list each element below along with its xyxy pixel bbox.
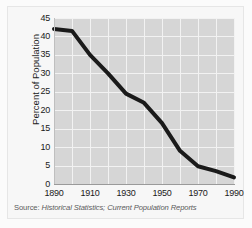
y-axis-title-holder: Percent of Population (14, 18, 32, 184)
gridline-vertical (234, 18, 235, 184)
x-tick-label: 1890 (44, 187, 63, 199)
plot-area (54, 18, 234, 184)
y-axis-title: Percent of Population (30, 15, 41, 145)
x-tick-label: 1930 (116, 187, 135, 199)
x-axis-line (54, 184, 235, 185)
series-polyline (54, 29, 234, 177)
source-text: Historical Statistics; Current Populatio… (42, 203, 197, 212)
y-axis-line (54, 18, 55, 184)
x-tick-label: 1990 (224, 187, 243, 199)
chart-figure: 454035302520151050 189019101930195019701… (0, 0, 252, 228)
x-tick-label: 1950 (152, 187, 171, 199)
line-series (54, 18, 234, 184)
x-axis-ticks: 189019101930195019701990 (54, 187, 235, 201)
x-tick-label: 1910 (80, 187, 99, 199)
source-note: Source: Historical Statistics; Current P… (14, 203, 197, 212)
x-tick-label: 1970 (188, 187, 207, 199)
source-label: Source: (14, 203, 39, 212)
